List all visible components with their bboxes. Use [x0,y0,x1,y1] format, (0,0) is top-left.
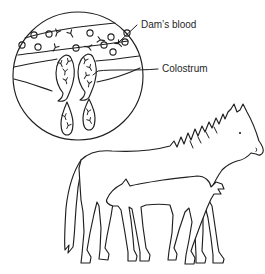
antibody-glyph [87,118,94,125]
magnified-inset [13,12,143,140]
tissue-fold-left [14,79,52,91]
milk-droplet-right [83,99,95,130]
blood-cell-glyph [110,49,116,55]
antibody-glyph [65,123,71,130]
foal-body [106,176,224,264]
milk-droplet-left [61,102,73,135]
gland-sac-left [56,55,74,101]
blood-cell-glyph [35,44,41,50]
blood-cell-glyph [87,30,93,36]
label-dams-blood: Dam’s blood [141,19,196,30]
membrane-line-left [14,59,57,67]
antibody-glyph [67,30,75,39]
dams-blood-leader-line [119,25,137,42]
colostrum-diagram: Dam’s blood Colostrum [0,0,265,274]
antibody-glyph [85,109,91,115]
mare-eye [239,132,241,134]
label-colostrum: Colostrum [162,63,208,74]
blood-cell-glyph [108,34,114,40]
antibody-glyph [84,44,92,51]
mare-foal-drawing [65,104,264,264]
diagram-canvas: Dam’s blood Colostrum [0,0,265,274]
gland-sac-right [78,54,96,100]
annotations: Dam’s blood Colostrum [93,19,208,75]
droplet-antibodies-layer [62,109,93,130]
membrane-line-right [96,56,139,61]
